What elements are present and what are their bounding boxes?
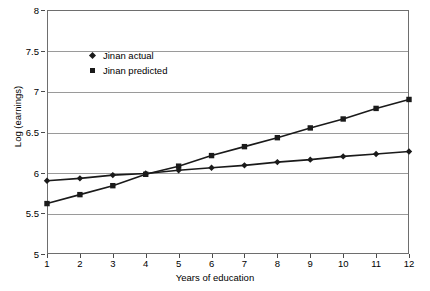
series-overlay [47, 10, 409, 254]
x-tick-mark [146, 254, 147, 258]
x-tick-label: 7 [242, 258, 247, 269]
data-point-diamond [406, 148, 412, 154]
y-tick-label: 7.5 [26, 45, 39, 56]
x-tick-label: 8 [275, 258, 280, 269]
series-line-2 [47, 99, 409, 203]
data-point-diamond [274, 159, 280, 165]
x-tick-label: 11 [371, 258, 381, 269]
x-tick-label: 6 [209, 258, 214, 269]
x-tick-mark [47, 254, 48, 258]
x-tick-mark [277, 254, 278, 258]
data-point-square [340, 116, 345, 121]
y-tick-mark [41, 213, 45, 214]
data-point-diamond [77, 175, 83, 181]
legend-label-actual: Jinan actual [103, 48, 154, 63]
y-axis: 55.566.577.58 [0, 0, 45, 291]
data-point-square [406, 97, 411, 102]
series-line-1 [47, 152, 409, 181]
y-tick-mark [41, 10, 45, 11]
data-point-square [143, 172, 148, 177]
data-point-diamond [307, 156, 313, 162]
data-point-square [209, 153, 214, 158]
x-tick-mark [113, 254, 114, 258]
y-tick-mark [41, 254, 45, 255]
diamond-marker-icon [85, 53, 99, 58]
x-tick-label: 4 [143, 258, 148, 269]
y-tick-label: 6 [34, 167, 39, 178]
y-tick-label: 5.5 [26, 208, 39, 219]
x-tick-label: 9 [308, 258, 313, 269]
y-tick-mark [41, 91, 45, 92]
y-tick-mark [41, 132, 45, 133]
x-tick-label: 12 [404, 258, 415, 269]
x-tick-label: 3 [110, 258, 115, 269]
x-tick-mark [376, 254, 377, 258]
x-tick-label: 10 [338, 258, 349, 269]
data-point-square [77, 192, 82, 197]
data-point-square [275, 135, 280, 140]
data-point-square [176, 163, 181, 168]
x-tick-label: 2 [77, 258, 82, 269]
y-tick-mark [41, 51, 45, 52]
x-tick-mark [343, 254, 344, 258]
y-tick-label: 7 [34, 86, 39, 97]
data-point-square [242, 144, 247, 149]
data-point-square [110, 183, 115, 188]
x-tick-mark [310, 254, 311, 258]
x-tick-mark [244, 254, 245, 258]
y-tick-label: 6.5 [26, 127, 39, 138]
x-tick-mark [409, 254, 410, 258]
x-tick-mark [179, 254, 180, 258]
square-marker-icon [85, 68, 99, 73]
y-tick-label: 5 [34, 249, 39, 260]
legend-item-predicted: Jinan predicted [85, 63, 167, 78]
data-point-diamond [110, 172, 116, 178]
data-point-square [373, 106, 378, 111]
legend-label-predicted: Jinan predicted [103, 63, 167, 78]
data-point-diamond [241, 162, 247, 168]
chart-legend: Jinan actual Jinan predicted [85, 48, 167, 78]
data-point-diamond [373, 151, 379, 157]
x-tick-label: 1 [44, 258, 49, 269]
chart-container: 55.566.577.58 Log (earnings) Years of ed… [0, 0, 430, 291]
data-point-square [308, 125, 313, 130]
x-tick-label: 5 [176, 258, 181, 269]
data-point-diamond [208, 165, 214, 171]
y-tick-label: 8 [34, 5, 39, 16]
x-tick-mark [212, 254, 213, 258]
data-point-diamond [340, 153, 346, 159]
legend-item-actual: Jinan actual [85, 48, 167, 63]
data-point-square [44, 201, 49, 206]
y-tick-mark [41, 173, 45, 174]
y-axis-title: Log (earnings) [12, 62, 23, 172]
x-axis-title: Years of education [0, 272, 430, 283]
x-tick-mark [80, 254, 81, 258]
